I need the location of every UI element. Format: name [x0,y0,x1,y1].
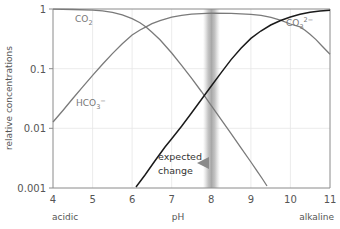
x-tick-9: 9 [248,194,254,205]
x-tick-8: 8 [208,194,214,205]
x-label-acidic: acidic [52,212,78,222]
x-tick-7: 7 [169,194,175,205]
x-label-alkaline: alkaline [299,212,334,222]
y-tick-0.01: 0.01 [24,123,46,134]
x-tick-10: 10 [284,194,297,205]
co2-label: CO2 [75,14,93,27]
y-tick-0.1: 0.1 [30,64,46,75]
x-tick-4: 4 [50,194,56,205]
y-axis-title: relative concentrations [4,46,14,150]
annotation-change: change [158,165,193,176]
x-tick-5: 5 [89,194,95,205]
hco3-label: HCO3− [76,97,106,111]
y-ticks-marks [49,9,53,188]
carbonate-speciation-chart: CO2 HCO3− CO32− expected change 1 0.1 0.… [0,0,340,229]
x-axis-title: pH [172,212,184,222]
y-tick-0.001: 0.001 [17,183,46,194]
x-tick-11: 11 [324,194,337,205]
annotation-expected: expected [158,151,202,162]
x-tick-6: 6 [129,194,135,205]
y-tick-1: 1 [40,4,46,15]
